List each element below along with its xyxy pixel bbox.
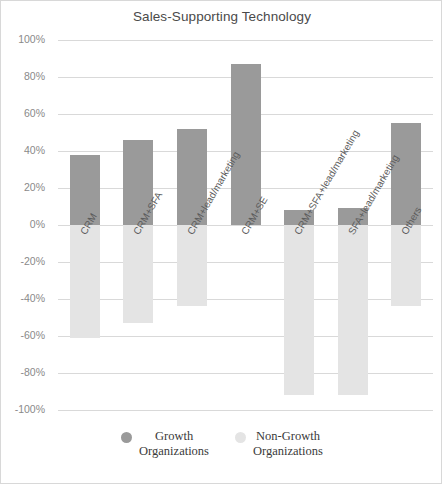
- bar-non-growth: [70, 225, 100, 338]
- y-axis-tick-label: 40%: [0, 144, 45, 156]
- y-axis-tick-label: -20%: [0, 255, 45, 267]
- y-axis-tick-label: 20%: [0, 181, 45, 193]
- y-axis-tick-label: 60%: [0, 107, 45, 119]
- legend-swatch-icon: [121, 432, 132, 443]
- legend-label: Non-Growth Organizations: [253, 429, 323, 459]
- gridline: [58, 410, 433, 411]
- legend-swatch-icon: [235, 432, 246, 443]
- bar-non-growth: [284, 225, 314, 395]
- y-axis-tick-label: 0%: [0, 218, 45, 230]
- y-axis-tick-label: 100%: [0, 33, 45, 45]
- chart-title: Sales-Supporting Technology: [1, 9, 442, 24]
- y-axis-tick-label: -100%: [0, 403, 45, 415]
- y-axis-tick-label: 80%: [0, 70, 45, 82]
- bar-non-growth: [177, 225, 207, 306]
- legend-label: Growth Organizations: [139, 429, 209, 459]
- chart-legend: Growth OrganizationsNon-Growth Organizat…: [1, 429, 442, 459]
- legend-entry[interactable]: Growth Organizations: [121, 429, 209, 459]
- plot-area: 100%80%60%40%20%0%-20%-40%-60%-80%-100% …: [58, 40, 433, 410]
- y-axis-tick-label: -80%: [0, 366, 45, 378]
- chart-container: Sales-Supporting Technology 100%80%60%40…: [0, 0, 442, 484]
- y-axis-tick-label: -60%: [0, 329, 45, 341]
- legend-entry[interactable]: Non-Growth Organizations: [235, 429, 323, 459]
- y-axis-tick-label: -40%: [0, 292, 45, 304]
- bar-non-growth: [338, 225, 368, 395]
- bar-non-growth: [123, 225, 153, 323]
- bar-non-growth: [391, 225, 421, 306]
